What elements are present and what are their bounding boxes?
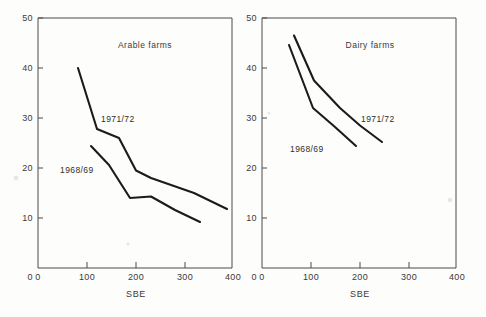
- y-tick-label-50: 50: [246, 13, 257, 23]
- x-tick-label-200: 200: [352, 272, 368, 282]
- x-tick-label-200: 200: [128, 272, 144, 282]
- series-label-1968-69: 1968/69: [60, 165, 94, 175]
- y-tick-label-0: 0: [252, 272, 257, 282]
- series-line-1971-72: [294, 36, 382, 143]
- series-label-1968-69: 1968/69: [290, 144, 324, 154]
- arable-farms-plot: 50 40 30 20 10 0 0 100 200 300 400 SBE A…: [0, 0, 243, 317]
- x-tick-label-400: 400: [449, 272, 465, 282]
- series-label-1971-72: 1971/72: [101, 114, 135, 124]
- x-tick-label-0: 0: [35, 272, 40, 282]
- plot-frame: [262, 18, 456, 268]
- x-tick-label-300: 300: [177, 272, 193, 282]
- x-axis-title: SBE: [350, 289, 370, 299]
- series-label-1971-72: 1971/72: [361, 114, 395, 124]
- y-tick-label-30: 30: [22, 113, 33, 123]
- y-tick-label-10: 10: [246, 213, 257, 223]
- y-tick-label-30: 30: [246, 113, 257, 123]
- figure-canvas: 50 40 30 20 10 0 0 100 200 300 400 SBE A…: [0, 0, 486, 317]
- y-tick-label-20: 20: [22, 163, 33, 173]
- y-tick-label-20: 20: [246, 163, 257, 173]
- paper-speck: [448, 198, 452, 202]
- series-line-1968-69: [91, 146, 200, 222]
- series-line-1971-72: [78, 68, 227, 209]
- x-tick-label-0: 0: [259, 272, 264, 282]
- panel-title: Dairy farms: [346, 40, 395, 50]
- paper-speck: [268, 112, 271, 115]
- panel-title: Arable farms: [118, 40, 172, 50]
- x-axis-ticks: [87, 262, 185, 268]
- paper-speck: [126, 242, 129, 245]
- series-line-1968-69: [289, 45, 356, 146]
- y-tick-label-40: 40: [246, 63, 257, 73]
- y-tick-label-10: 10: [22, 213, 33, 223]
- chart-panel-dairy: 50 40 30 20 10 0 0 100 200 300 400 SBE D…: [243, 0, 486, 317]
- x-tick-label-100: 100: [303, 272, 319, 282]
- x-axis-title: SBE: [126, 289, 146, 299]
- x-tick-label-300: 300: [401, 272, 417, 282]
- paper-speck: [14, 176, 19, 181]
- y-axis-ticks: [38, 18, 43, 218]
- y-tick-label-0: 0: [28, 272, 33, 282]
- x-tick-label-100: 100: [79, 272, 95, 282]
- dairy-farms-plot: 50 40 30 20 10 0 0 100 200 300 400 SBE D…: [243, 0, 486, 317]
- y-tick-label-50: 50: [22, 13, 33, 23]
- y-tick-label-40: 40: [22, 63, 33, 73]
- x-axis-ticks: [311, 262, 409, 268]
- chart-panel-arable: 50 40 30 20 10 0 0 100 200 300 400 SBE A…: [0, 0, 243, 317]
- y-axis-ticks: [262, 18, 267, 218]
- x-tick-label-400: 400: [225, 272, 241, 282]
- plot-frame: [38, 18, 232, 268]
